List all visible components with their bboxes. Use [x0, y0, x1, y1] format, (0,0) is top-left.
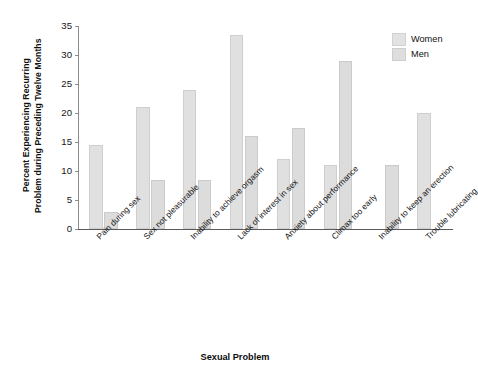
bar-women: [417, 113, 431, 229]
bar-women: [89, 145, 103, 229]
y-axis-title-line-1: Percent Experiencing Recurring: [22, 18, 31, 233]
y-axis-title-line-2: Problem during Preceding Twelve Months: [34, 18, 43, 233]
y-axis-tick-label: 10: [52, 166, 72, 176]
y-axis-tick-label: 35: [52, 21, 72, 31]
legend-swatch-icon: [392, 48, 406, 61]
y-axis-tick-label: 0: [52, 224, 72, 234]
bar-men: [339, 61, 353, 229]
y-axis-tick-label: 5: [52, 195, 72, 205]
legend-item-women: Women: [392, 32, 466, 47]
legend-label: Women: [411, 35, 443, 44]
y-axis-tick-label: 25: [52, 79, 72, 89]
bar-women: [183, 90, 197, 229]
y-axis-tick-label: 30: [52, 50, 72, 60]
legend-item-men: Men: [392, 47, 466, 62]
bar-group: [78, 26, 125, 229]
x-axis-title: Sexual Problem: [0, 352, 470, 362]
y-axis-tick-label: 20: [52, 108, 72, 118]
bar-women: [136, 107, 150, 229]
y-axis-tick-label: 15: [52, 137, 72, 147]
x-axis-line: [78, 229, 453, 230]
legend-label: Men: [411, 50, 429, 59]
chart-legend: WomenMen: [392, 32, 466, 62]
legend-swatch-icon: [392, 33, 406, 46]
y-axis-tick-mark: [75, 229, 78, 230]
